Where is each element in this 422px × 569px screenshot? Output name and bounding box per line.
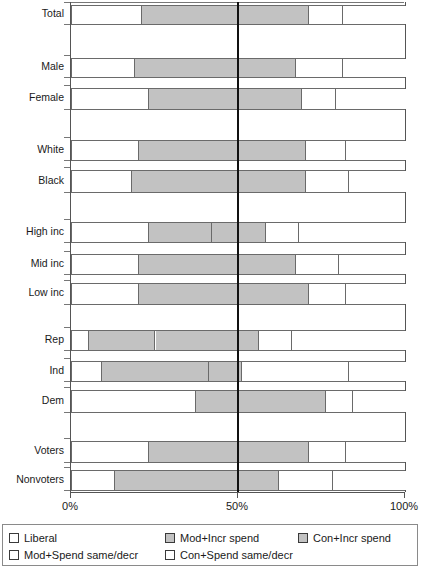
category-label-total: Total bbox=[0, 7, 64, 19]
category-tick bbox=[64, 490, 70, 491]
category-tick bbox=[64, 467, 70, 468]
category-label-black: Black bbox=[0, 174, 64, 186]
bar-segment bbox=[309, 284, 346, 304]
legend-label: Con+Spend same/decr bbox=[180, 549, 293, 561]
legend-item: Mod+Incr spend bbox=[165, 532, 259, 544]
category-tick bbox=[64, 55, 70, 56]
bar-segment bbox=[309, 442, 346, 462]
legend-label: Con+Incr spend bbox=[313, 532, 391, 544]
bar-segment bbox=[302, 89, 335, 109]
legend-item: Mod+Spend same/decr bbox=[9, 549, 138, 561]
bar-segment bbox=[239, 391, 326, 412]
bar-segment bbox=[239, 59, 296, 77]
bar-segment bbox=[72, 223, 149, 242]
bar-segment bbox=[296, 59, 343, 77]
bar-segment bbox=[149, 223, 212, 242]
bar-segment bbox=[296, 255, 339, 274]
category-tick bbox=[64, 438, 70, 439]
bar-segment bbox=[139, 255, 239, 274]
bar-segment bbox=[242, 362, 349, 381]
category-tick bbox=[64, 381, 70, 382]
bar-segment bbox=[72, 141, 139, 160]
bar-segment bbox=[266, 223, 299, 242]
category-tick bbox=[64, 412, 70, 413]
category-tick bbox=[64, 192, 70, 193]
category-tick bbox=[64, 24, 70, 25]
bar-segment bbox=[72, 255, 139, 274]
bar-segment bbox=[239, 141, 306, 160]
category-tick bbox=[64, 350, 70, 351]
bar-segment bbox=[349, 171, 406, 192]
bar-segment bbox=[156, 331, 260, 350]
bar-segment bbox=[353, 391, 406, 412]
bar-segment bbox=[292, 331, 406, 350]
category-tick bbox=[64, 109, 70, 110]
category-label-rep: Rep bbox=[0, 333, 64, 345]
category-tick bbox=[64, 274, 70, 275]
legend-label: Liberal bbox=[24, 532, 57, 544]
category-tick bbox=[64, 387, 70, 388]
bar-segment bbox=[239, 171, 306, 192]
bar-segment bbox=[239, 471, 279, 490]
bar-segment bbox=[72, 89, 149, 109]
x-tick bbox=[237, 492, 238, 498]
bar-segment bbox=[135, 59, 239, 77]
category-tick bbox=[64, 167, 70, 168]
category-tick bbox=[64, 304, 70, 305]
bar-segment bbox=[72, 6, 142, 24]
bar-segment bbox=[139, 284, 239, 304]
bar-segment bbox=[239, 6, 309, 24]
category-tick bbox=[64, 85, 70, 86]
bar-segment bbox=[72, 284, 139, 304]
stacked-bar-chart: TotalMaleFemaleWhiteBlackHigh incMid inc… bbox=[0, 0, 422, 569]
category-tick bbox=[64, 160, 70, 161]
legend-swatch-icon bbox=[9, 533, 19, 543]
bar-segment bbox=[149, 89, 239, 109]
bar-segment bbox=[115, 471, 239, 490]
bar-segment bbox=[306, 171, 349, 192]
legend-item: Liberal bbox=[9, 532, 57, 544]
bar-segment bbox=[72, 362, 102, 381]
x-tick-label: 0% bbox=[62, 500, 78, 512]
category-tick bbox=[64, 251, 70, 252]
bar-segment bbox=[89, 331, 156, 350]
bar-segment bbox=[339, 255, 406, 274]
bar-segment bbox=[72, 442, 149, 462]
bar-segment bbox=[72, 331, 89, 350]
fifty-percent-reference-line bbox=[237, 2, 239, 492]
bar-segment bbox=[139, 141, 239, 160]
category-label-high-inc: High inc bbox=[0, 225, 64, 237]
bar-segment bbox=[349, 362, 406, 381]
bar-segment bbox=[72, 171, 132, 192]
category-label-female: Female bbox=[0, 91, 64, 103]
category-tick bbox=[64, 219, 70, 220]
legend: LiberalMod+Incr spendCon+Incr spendMod+S… bbox=[2, 524, 418, 566]
bar-segment bbox=[299, 223, 406, 242]
bar-segment bbox=[346, 284, 406, 304]
x-tick-label: 100% bbox=[390, 500, 418, 512]
category-tick bbox=[64, 2, 70, 3]
bar-segment bbox=[336, 89, 406, 109]
category-label-mid-inc: Mid inc bbox=[0, 257, 64, 269]
bar-segment bbox=[343, 6, 406, 24]
bar-segment bbox=[142, 6, 239, 24]
category-label-nonvoters: Nonvoters bbox=[0, 473, 64, 485]
category-tick bbox=[64, 462, 70, 463]
x-tick bbox=[404, 492, 405, 498]
bar-segment bbox=[72, 391, 196, 412]
category-tick bbox=[64, 77, 70, 78]
legend-swatch-icon bbox=[9, 550, 19, 560]
bar-segment bbox=[102, 362, 209, 381]
bar-segment bbox=[279, 471, 332, 490]
category-tick bbox=[64, 358, 70, 359]
category-label-dem: Dem bbox=[0, 394, 64, 406]
bar-segment bbox=[259, 331, 292, 350]
bar-segment bbox=[196, 391, 239, 412]
bar-segment bbox=[72, 59, 135, 77]
bar-segment bbox=[343, 59, 406, 77]
bar-segment bbox=[333, 471, 406, 490]
category-label-low-inc: Low inc bbox=[0, 286, 64, 298]
bar-segment bbox=[346, 141, 406, 160]
legend-swatch-icon bbox=[298, 533, 308, 543]
category-tick bbox=[64, 280, 70, 281]
